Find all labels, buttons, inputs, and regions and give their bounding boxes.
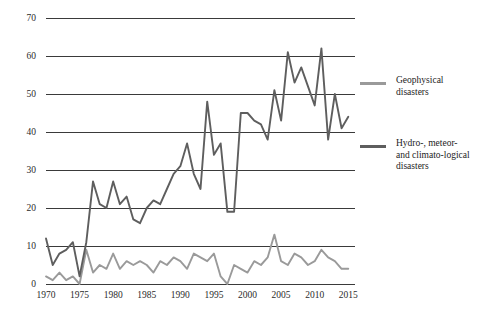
series-line-hydro — [46, 48, 348, 276]
chart-container: 706050403020100 197019751980198519901995… — [0, 0, 494, 311]
legend-label-geophysical-line2: disasters — [396, 87, 429, 97]
legend-label-geophysical-line1: Geophysical — [396, 75, 444, 85]
legend-swatch-geophysical — [360, 82, 386, 85]
legend-label-hydro: Hydro-, meteor- and climato-logical disa… — [396, 138, 494, 173]
series-line-geophysical — [46, 235, 348, 284]
legend-swatch-hydro — [360, 145, 386, 148]
legend-label-hydro-line3: disasters — [396, 161, 429, 171]
legend-label-hydro-line2: and climato-logical — [396, 150, 470, 160]
legend-label-geophysical: Geophysical disasters — [396, 75, 494, 98]
legend-label-hydro-line1: Hydro-, meteor- — [396, 138, 458, 148]
